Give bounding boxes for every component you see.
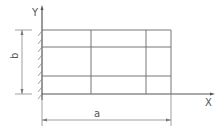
- dimension-b-label: b: [9, 53, 20, 59]
- x-axis-arrow-icon: [210, 93, 215, 96]
- dimension-a-label: a: [94, 108, 100, 119]
- dimension-b: [15, 30, 32, 94]
- plate-grid: [42, 30, 171, 94]
- x-axis-label: X: [205, 97, 212, 108]
- y-axis-label: Y: [31, 7, 39, 18]
- y-axis-arrow-icon: [41, 5, 44, 10]
- dimension-a: [42, 94, 171, 126]
- plate-diagram: Y X b a: [0, 0, 224, 132]
